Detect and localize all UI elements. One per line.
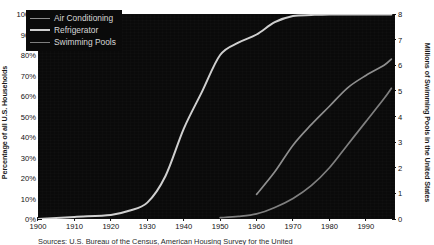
legend-item[interactable]: Refrigerator	[30, 24, 116, 36]
y-axis-left-tick: 10%	[21, 194, 36, 203]
legend-swatch-icon	[30, 29, 50, 31]
x-axis-tick: 1940	[175, 222, 192, 231]
y-axis-right-tick: 3	[398, 138, 402, 147]
y-axis-right-tick: 6	[398, 61, 402, 70]
y-axis-left-tick: 50%	[21, 112, 36, 121]
x-axis-tick: 1950	[212, 222, 229, 231]
x-axis-tick: 1990	[357, 222, 374, 231]
x-axis-tick: 1900	[30, 222, 47, 231]
chart-figure: Percentage of all U.S. Households Millio…	[0, 0, 434, 245]
y-axis-left-tick: 60%	[21, 92, 36, 101]
y-axis-left-tick: 20%	[21, 174, 36, 183]
x-axis-tick: 1920	[102, 222, 119, 231]
x-axis-tick: 1910	[66, 222, 83, 231]
legend-swatch-icon	[30, 18, 50, 19]
y-axis-right-tick: 4	[398, 112, 402, 121]
y-axis-left-tick: 80%	[21, 51, 36, 60]
x-axis-tick: 1970	[285, 222, 302, 231]
y-axis-left-tick: 40%	[21, 133, 36, 142]
legend-item[interactable]: Air Conditioning	[30, 12, 116, 24]
legend-swatch-icon	[30, 42, 50, 43]
y-axis-right-title: Millions of Swimming Pools in the United…	[421, 0, 434, 245]
x-axis-tick: 1960	[248, 222, 265, 231]
x-axis-tick: 1980	[321, 222, 338, 231]
y-axis-left-tick: 70%	[21, 71, 36, 80]
y-axis-right-tick: 2	[398, 163, 402, 172]
legend-item-label: Refrigerator	[54, 25, 98, 35]
y-axis-right-tick: 1	[398, 189, 402, 198]
chart-caption: Sources: U.S. Bureau of the Census, Amer…	[38, 236, 434, 245]
y-axis-right-tick: 5	[398, 86, 402, 95]
y-axis-left-title: Percentage of all U.S. Households	[0, 0, 12, 245]
legend-item-label: Air Conditioning	[54, 13, 113, 23]
y-axis-right-tick: 0	[398, 215, 402, 224]
y-axis-right-tick: 8	[398, 10, 402, 19]
x-axis-tick: 1930	[139, 222, 156, 231]
chart-legend: Air ConditioningRefrigeratorSwimming Poo…	[26, 10, 122, 51]
legend-item[interactable]: Swimming Pools	[30, 36, 116, 48]
legend-item-label: Swimming Pools	[54, 37, 116, 47]
y-axis-right-tick: 7	[398, 35, 402, 44]
y-axis-left-tick: 30%	[21, 153, 36, 162]
